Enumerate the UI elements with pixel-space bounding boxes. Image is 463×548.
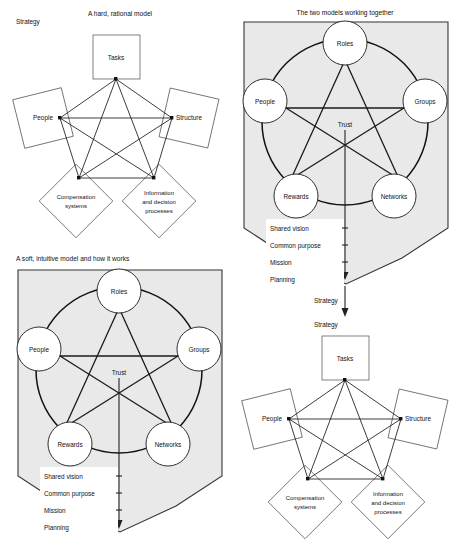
node-label-information-line1: Information <box>373 491 403 497</box>
node-label-roles: Roles <box>111 288 127 295</box>
node-label-information-line2: and decision <box>142 199 176 205</box>
node-label-groups: Groups <box>415 98 436 106</box>
list-item-planning: Planning <box>44 524 69 532</box>
panel-hard-rational-model-output: Strategy Tasks People Structure Compensa… <box>232 318 463 548</box>
top-right-title: The two models working together <box>296 9 394 17</box>
outflow-label-strategy: Strategy <box>314 297 339 305</box>
list-item-shared-vision: Shared vision <box>44 473 83 480</box>
node-shape-compensation <box>39 164 113 238</box>
node-label-tasks: Tasks <box>337 355 353 362</box>
node-label-people: People <box>262 415 282 423</box>
node-label-tasks: Tasks <box>108 54 124 61</box>
node-label-information-line3: processes <box>374 509 401 515</box>
list-item-planning: Planning <box>270 276 295 284</box>
node-label-structure: Structure <box>405 415 431 422</box>
list-item-mission: Mission <box>44 507 66 514</box>
list-item-shared-vision: Shared vision <box>270 225 309 232</box>
node-label-compensation-line1: Compensation <box>286 495 325 501</box>
node-label-networks: Networks <box>155 441 182 448</box>
node-label-networks: Networks <box>381 193 408 200</box>
node-label-structure: Structure <box>176 114 202 121</box>
node-label-information-line2: and decision <box>371 500 405 506</box>
panel-soft-intuitive-model: A soft, intuitive model and how it works… <box>0 248 232 548</box>
node-label-people: People <box>33 114 53 122</box>
node-label-people: People <box>29 346 49 354</box>
node-label-groups: Groups <box>189 346 210 354</box>
bottom-left-title: A soft, intuitive model and how it works <box>16 255 130 262</box>
list-item-common-purpose: Common purpose <box>44 490 95 498</box>
top-left-strategy-label: Strategy <box>16 18 41 26</box>
list-item-common-purpose: Common purpose <box>270 242 321 250</box>
node-label-rewards: Rewards <box>57 441 82 448</box>
outflow-arrowhead <box>342 308 349 317</box>
node-label-compensation-line2: systems <box>65 203 87 209</box>
connector-graph-hard-model <box>60 79 172 178</box>
list-item-mission: Mission <box>270 259 292 266</box>
node-label-rewards: Rewards <box>283 193 308 200</box>
bottom-right-strategy-label: Strategy <box>314 321 339 329</box>
node-label-compensation-line1: Compensation <box>57 194 96 200</box>
node-label-people: People <box>255 98 275 106</box>
node-label-compensation-line2: systems <box>294 504 316 510</box>
node-shape-compensation <box>268 465 342 539</box>
panel-hard-rational-model: A hard, rational model Strategy Tasks Pe… <box>0 0 232 245</box>
center-label-trust: Trust <box>112 369 127 376</box>
top-left-title: A hard, rational model <box>88 10 153 17</box>
node-label-information-line3: processes <box>145 208 172 214</box>
center-label-trust: Trust <box>338 121 353 128</box>
node-label-information-line1: Information <box>144 190 174 196</box>
panel-two-models-together: The two models working together Roles Pe… <box>232 0 463 320</box>
connector-graph-hard-model <box>289 380 401 479</box>
node-label-roles: Roles <box>337 40 353 47</box>
